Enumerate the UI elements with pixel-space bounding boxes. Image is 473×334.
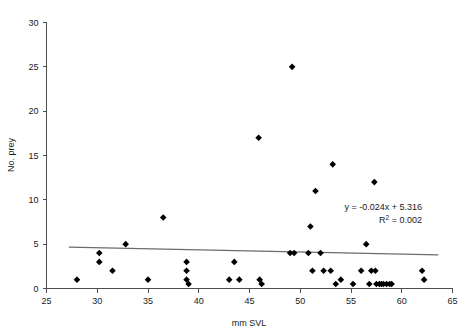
scatter-chart-figure: 253035404550556065 051015202530 mm SVL N… [0, 0, 473, 334]
data-point-marker [307, 223, 314, 230]
data-point-marker [309, 267, 316, 274]
data-point-marker [255, 134, 262, 141]
data-point-marker [122, 241, 129, 248]
y-tick-label: 5 [33, 239, 38, 249]
data-point-marker [96, 250, 103, 257]
data-point-marker [236, 276, 243, 283]
x-tick-label: 55 [346, 296, 356, 306]
tick-marks-group [43, 23, 453, 293]
x-tick-labels-group: 253035404550556065 [41, 296, 457, 306]
data-point-marker [291, 250, 298, 257]
trendline-group [69, 247, 438, 255]
data-point-marker [109, 267, 116, 274]
data-point-marker [363, 241, 370, 248]
x-tick-label: 60 [397, 296, 407, 306]
data-point-marker [305, 250, 312, 257]
data-point-marker [231, 259, 238, 266]
data-point-marker [421, 276, 428, 283]
y-tick-label: 25 [28, 62, 38, 72]
y-tick-label: 15 [28, 151, 38, 161]
data-point-marker [312, 188, 319, 195]
y-tick-label: 0 [33, 284, 38, 294]
data-point-marker [289, 64, 296, 71]
x-axis-title: mm SVL [232, 318, 267, 328]
data-point-marker [350, 281, 357, 288]
data-point-marker [96, 259, 103, 266]
regression-trendline [69, 247, 438, 255]
data-point-marker [358, 267, 365, 274]
data-point-marker [329, 161, 336, 168]
y-tick-label: 20 [28, 106, 38, 116]
axes-group [47, 23, 453, 289]
x-tick-label: 30 [92, 296, 102, 306]
data-point-marker [372, 267, 379, 274]
x-tick-label: 65 [447, 296, 457, 306]
data-point-marker [366, 281, 373, 288]
r-squared-label: R2 = 0.002 [379, 214, 422, 226]
x-tick-label: 45 [244, 296, 254, 306]
data-point-marker [419, 267, 426, 274]
data-point-marker [338, 276, 345, 283]
y-tick-label: 30 [28, 18, 38, 28]
data-point-marker [332, 281, 339, 288]
x-tick-label: 25 [41, 296, 51, 306]
data-point-marker [327, 267, 334, 274]
data-point-marker [145, 276, 152, 283]
r-squared-value: = 0.002 [389, 215, 422, 225]
data-point-marker [371, 179, 378, 186]
data-point-marker [183, 267, 190, 274]
x-tick-label: 40 [194, 296, 204, 306]
data-point-marker [160, 214, 167, 221]
y-tick-label: 10 [28, 195, 38, 205]
data-point-marker [226, 276, 233, 283]
x-tick-label: 35 [143, 296, 153, 306]
chart-canvas: 253035404550556065 051015202530 mm SVL N… [0, 0, 473, 334]
y-tick-labels-group: 051015202530 [28, 18, 38, 294]
data-point-marker [183, 259, 190, 266]
data-point-marker [320, 267, 327, 274]
data-point-marker [74, 276, 81, 283]
regression-equation-label: y = -0.024x + 5.316 [344, 202, 422, 212]
data-point-marker [317, 250, 324, 257]
y-axis-title: No. prey [6, 137, 16, 172]
x-tick-label: 50 [295, 296, 305, 306]
